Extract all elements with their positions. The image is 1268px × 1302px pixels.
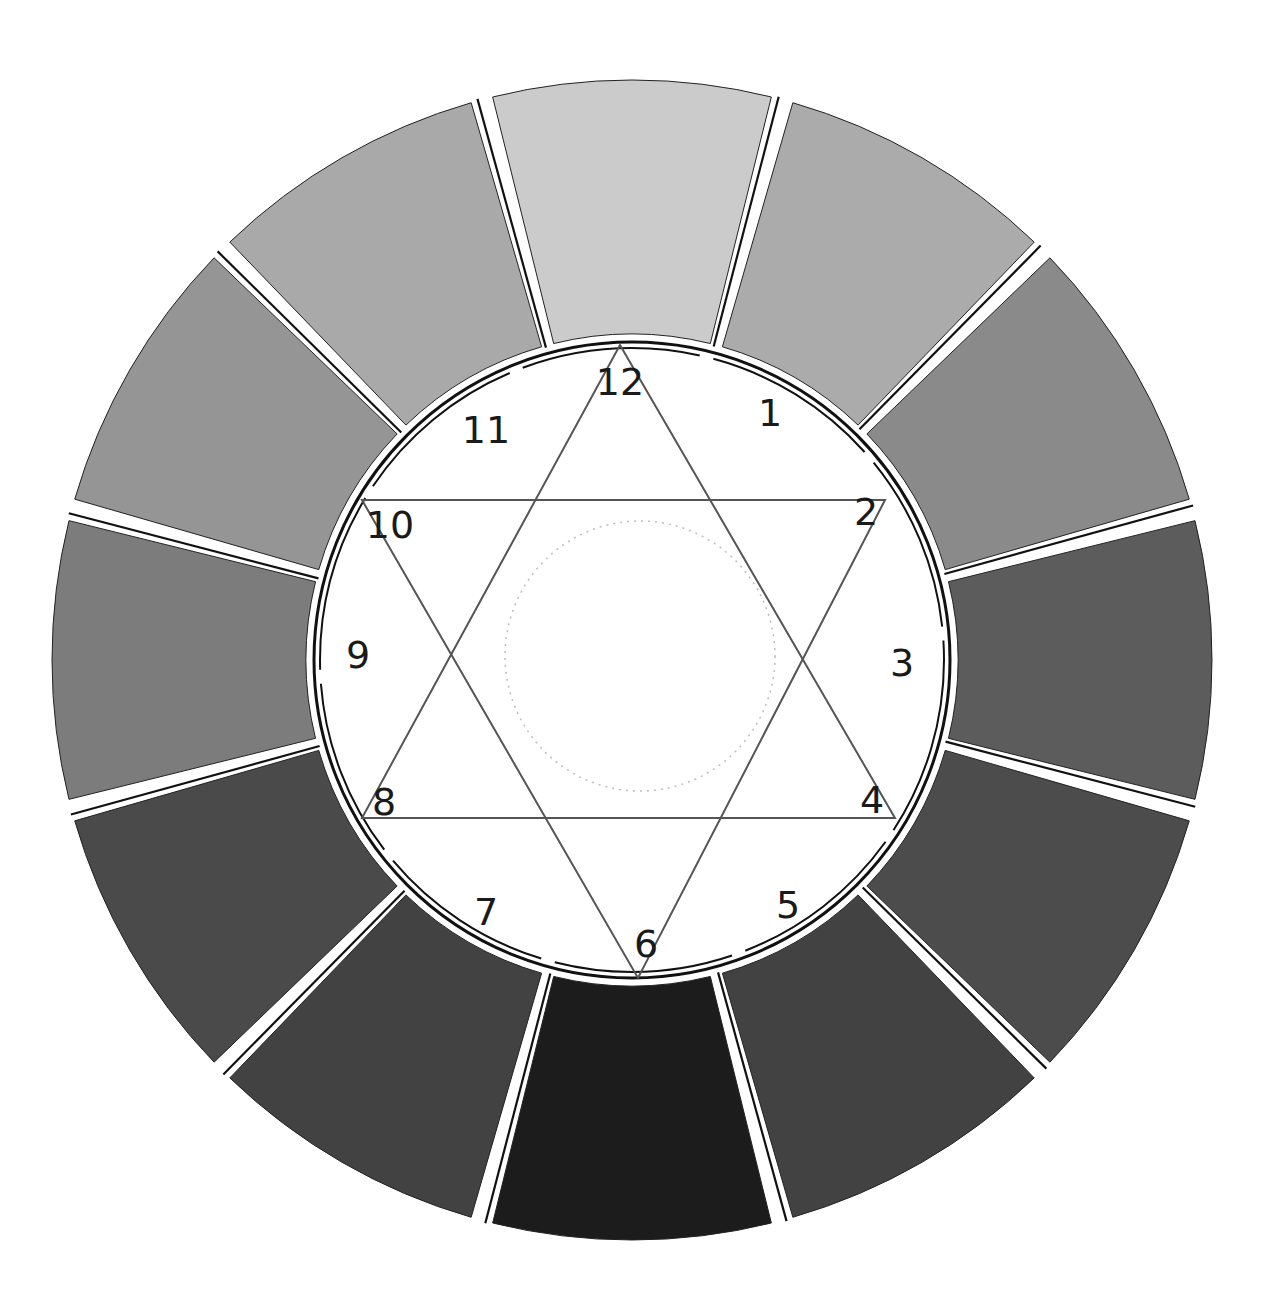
position-label-12: 12 [596, 360, 644, 404]
position-label-6: 6 [634, 922, 658, 966]
inner-white-disc [314, 342, 950, 978]
position-label-4: 4 [860, 778, 884, 822]
position-label-5: 5 [776, 883, 800, 927]
position-label-7: 7 [474, 890, 498, 934]
position-label-1: 1 [758, 391, 782, 435]
position-label-10: 10 [366, 503, 414, 547]
position-label-9: 9 [346, 633, 370, 677]
position-label-11: 11 [462, 408, 510, 452]
position-label-3: 3 [890, 641, 914, 685]
value-wheel-diagram: 121234567891011 [0, 0, 1268, 1302]
position-label-8: 8 [372, 780, 396, 824]
position-label-2: 2 [854, 490, 878, 534]
